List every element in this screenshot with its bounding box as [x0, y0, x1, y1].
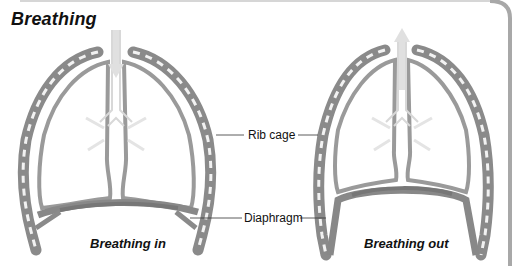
lungs-left [39, 62, 194, 208]
rib-cage-label: Rib cage [248, 128, 295, 142]
diagram-title: Breathing [11, 9, 97, 30]
breathing-out-caption: Breathing out [364, 236, 449, 251]
down-arrow-icon [108, 30, 124, 78]
diaphragm-label: Diaphragm [244, 211, 303, 225]
breathing-out-figure [319, 28, 489, 255]
breathing-in-figure [23, 30, 211, 250]
breathing-in-caption: Breathing in [90, 236, 166, 251]
